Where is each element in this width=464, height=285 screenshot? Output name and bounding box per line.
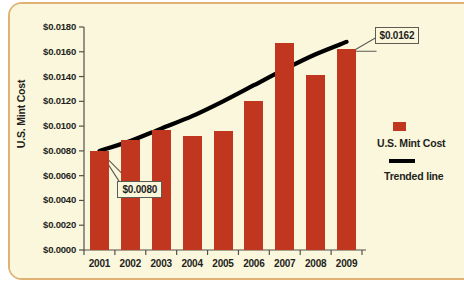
y-axis-tick-label: $0.0040 <box>10 194 76 205</box>
y-axis-title: U.S. Mint Cost <box>15 72 27 156</box>
chart-bar <box>306 75 325 250</box>
y-axis-tick-label: $0.0020 <box>10 219 76 230</box>
y-axis-tick-label: $0.0000 <box>10 244 76 255</box>
legend-swatch-trended-line <box>389 159 415 163</box>
chart-bar <box>244 101 263 250</box>
y-axis-tick-label: $0.0160 <box>10 46 76 57</box>
legend-label-mint-cost: U.S. Mint Cost <box>377 137 445 149</box>
chart-bar <box>275 43 294 250</box>
legend-label-trended-line: Trended line <box>384 170 443 182</box>
chart-bar <box>214 131 233 250</box>
chart-plot-area: $0.0000$0.0020$0.0040$0.0060$0.0080$0.01… <box>0 0 464 285</box>
chart-bar <box>183 136 202 250</box>
y-axis-tick-label: $0.0180 <box>10 21 76 32</box>
chart-bar <box>90 151 109 250</box>
y-axis-tick-label: $0.0060 <box>10 170 76 181</box>
legend-swatch-mint-cost <box>393 122 406 131</box>
x-axis-tick-label: 2009 <box>325 258 369 269</box>
chart-card: $0.0000$0.0020$0.0040$0.0060$0.0080$0.01… <box>0 0 464 285</box>
annotation-callout-2009: $0.0162 <box>375 27 420 44</box>
annotation-callout-2001: $0.0080 <box>117 181 162 198</box>
callout-leader-2009 <box>353 37 377 51</box>
chart-bar <box>337 49 356 250</box>
